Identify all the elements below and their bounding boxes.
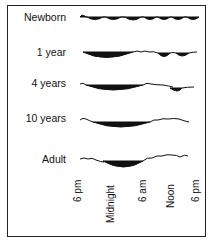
trace-4-years xyxy=(86,85,143,90)
tick-6am: 6 am xyxy=(137,180,148,202)
tick-6pm-start: 6 pm xyxy=(72,180,83,202)
trace-1-year xyxy=(83,52,133,58)
tick-midnight: Midnight xyxy=(105,185,116,223)
trace-adult xyxy=(103,161,143,167)
trace-newborn xyxy=(80,15,199,20)
trace-10-years xyxy=(93,122,150,127)
tick-noon: Noon xyxy=(165,184,176,208)
tick-6pm-end: 6 pm xyxy=(190,180,201,202)
